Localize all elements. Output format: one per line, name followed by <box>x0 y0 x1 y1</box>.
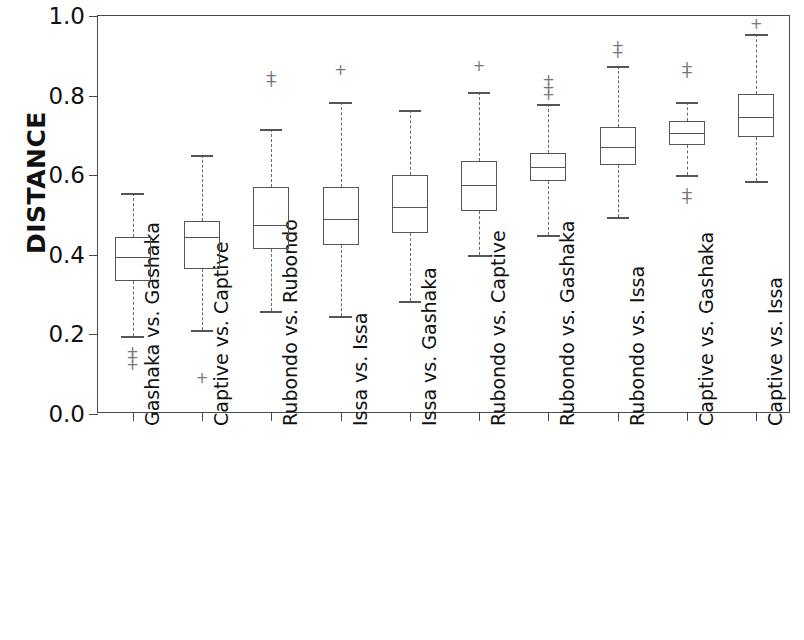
box-iqr <box>600 127 636 165</box>
median-line <box>184 237 220 238</box>
whisker-lower <box>548 181 549 235</box>
outlier-marker: + <box>611 45 624 60</box>
box-plot-item: + <box>461 16 497 412</box>
whisker-lower <box>202 269 203 331</box>
whisker-lower <box>756 137 757 181</box>
median-line <box>669 133 705 134</box>
box-plot-item: +++ <box>115 16 151 412</box>
whisker-upper <box>687 102 688 122</box>
median-line <box>392 207 428 208</box>
whisker-cap-lower <box>121 336 143 338</box>
whisker-upper <box>618 66 619 128</box>
box-plot-item: ++++ <box>669 16 705 412</box>
box-plot-item: +++ <box>530 16 566 412</box>
x-axis-tick <box>618 412 619 421</box>
whisker-upper <box>548 104 549 154</box>
y-axis-tick-label: 0.4 <box>48 242 85 268</box>
x-axis-tick <box>133 412 134 421</box>
median-line <box>738 117 774 118</box>
whisker-cap-upper <box>399 110 421 112</box>
y-axis-tick-label: 0.8 <box>48 83 85 109</box>
whisker-cap-upper <box>537 104 559 106</box>
whisker-cap-lower <box>399 301 421 303</box>
plot-area: 0.00.20.40.60.81.0Gashaka vs. Gashaka+++… <box>97 15 790 413</box>
x-axis-tick <box>756 412 757 421</box>
whisker-cap-upper <box>676 102 698 104</box>
outlier-marker: + <box>334 62 347 77</box>
whisker-cap-lower <box>329 316 351 318</box>
box-iqr <box>115 237 151 281</box>
box-plot-item: ++ <box>253 16 289 412</box>
y-axis-tick <box>89 16 98 17</box>
y-axis-tick <box>89 96 98 97</box>
outlier-marker: + <box>265 74 278 89</box>
whisker-cap-upper <box>191 155 213 157</box>
x-axis-tick <box>687 412 688 421</box>
y-axis-tick <box>89 414 98 415</box>
outlier-marker: + <box>196 371 209 386</box>
whisker-cap-upper <box>468 92 490 94</box>
whisker-cap-upper <box>607 66 629 68</box>
whisker-upper <box>479 92 480 162</box>
x-axis-tick <box>410 412 411 421</box>
median-line <box>461 185 497 186</box>
outlier-marker: + <box>473 58 486 73</box>
chart-root: DISTANCE 0.00.20.40.60.81.0Gashaka vs. G… <box>0 0 804 640</box>
box-iqr <box>392 175 428 233</box>
outlier-marker: + <box>681 65 694 80</box>
outlier-marker: + <box>681 192 694 207</box>
whisker-cap-upper <box>121 193 143 195</box>
whisker-lower <box>410 233 411 301</box>
y-axis-tick <box>89 255 98 256</box>
whisker-lower <box>133 281 134 337</box>
whisker-upper <box>202 155 203 221</box>
box-plot-item: + <box>184 16 220 412</box>
whisker-lower <box>687 145 688 175</box>
x-axis-tick <box>271 412 272 421</box>
whisker-upper <box>133 193 134 237</box>
x-axis-tick <box>202 412 203 421</box>
y-axis-tick-label: 1.0 <box>48 3 85 29</box>
box-iqr <box>184 221 220 269</box>
x-axis-tick <box>479 412 480 421</box>
outlier-marker: + <box>126 358 139 373</box>
whisker-cap-upper <box>329 102 351 104</box>
median-line <box>600 147 636 148</box>
median-line <box>115 257 151 258</box>
whisker-upper <box>271 129 272 187</box>
y-axis-tick-label: 0.6 <box>48 162 85 188</box>
whisker-cap-lower <box>260 311 282 313</box>
box-iqr <box>738 94 774 138</box>
y-axis-tick-label: 0.2 <box>48 321 85 347</box>
whisker-lower <box>479 211 480 255</box>
box-iqr <box>253 187 289 249</box>
whisker-upper <box>756 34 757 94</box>
box-plot-item: + <box>738 16 774 412</box>
outlier-marker: + <box>542 87 555 102</box>
whisker-lower <box>341 245 342 317</box>
whisker-cap-upper <box>745 34 767 36</box>
whisker-cap-lower <box>468 255 490 257</box>
y-axis-tick <box>89 334 98 335</box>
box-plot-item: + <box>323 16 359 412</box>
whisker-lower <box>271 249 272 311</box>
whisker-cap-upper <box>260 129 282 131</box>
y-axis-tick-label: 0.0 <box>48 401 85 427</box>
outlier-marker: + <box>750 16 763 31</box>
box-iqr <box>323 187 359 245</box>
whisker-upper <box>410 110 411 176</box>
whisker-cap-lower <box>607 217 629 219</box>
x-axis-tick <box>341 412 342 421</box>
y-axis-title: DISTANCE <box>22 103 51 263</box>
x-axis-tick <box>548 412 549 421</box>
median-line <box>323 219 359 220</box>
whisker-cap-lower <box>745 181 767 183</box>
box-plot-item <box>392 16 428 412</box>
y-axis-tick <box>89 175 98 176</box>
whisker-cap-lower <box>676 175 698 177</box>
whisker-lower <box>618 165 619 217</box>
median-line <box>530 167 566 168</box>
box-iqr <box>461 161 497 211</box>
box-plot-item: ++ <box>600 16 636 412</box>
whisker-cap-lower <box>191 330 213 332</box>
